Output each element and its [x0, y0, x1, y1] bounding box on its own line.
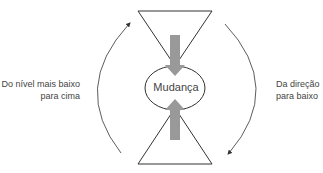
center-label-mudanca: Mudança — [144, 81, 208, 93]
right-curved-arrow — [225, 24, 256, 153]
left-label: Do nível mais baixo para cima — [0, 78, 80, 102]
right-label-line2: para baixo — [276, 90, 323, 102]
left-label-line2: para cima — [0, 90, 80, 102]
right-label-line1: Da direção — [276, 78, 323, 90]
left-curved-arrow — [97, 24, 129, 153]
right-label: Da direção para baixo — [276, 78, 323, 102]
left-label-line1: Do nível mais baixo — [0, 78, 80, 90]
